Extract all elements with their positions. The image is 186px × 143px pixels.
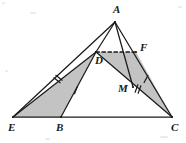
vertex-dot-a	[114, 21, 116, 23]
vertex-label-f: F	[139, 41, 148, 53]
vertex-dot-m	[132, 86, 134, 88]
vertex-dot-d	[95, 51, 97, 53]
vertex-dot-f	[135, 51, 137, 53]
vertex-label-e: E	[7, 121, 15, 133]
vertex-label-d: D	[94, 54, 103, 66]
vertex-dot-c	[171, 116, 173, 118]
scan-speck	[5, 70, 8, 72]
scan-speck	[160, 136, 168, 138]
vertex-label-b: B	[55, 121, 63, 133]
vertex-dot-b	[60, 116, 62, 118]
vertex-label-m: M	[117, 82, 129, 94]
shaded-regions-layer	[13, 52, 172, 117]
vertex-label-c: C	[171, 121, 179, 133]
geometry-figure: AECBDFM	[0, 0, 186, 143]
scan-speck	[45, 138, 50, 140]
scan-speck	[178, 6, 182, 8]
vertex-label-a: A	[112, 3, 120, 15]
scan-speck	[2, 2, 5, 4]
scan-speck	[30, 12, 36, 14]
vertex-dot-e	[12, 116, 14, 118]
geometry-canvas: AECBDFM	[0, 0, 186, 143]
